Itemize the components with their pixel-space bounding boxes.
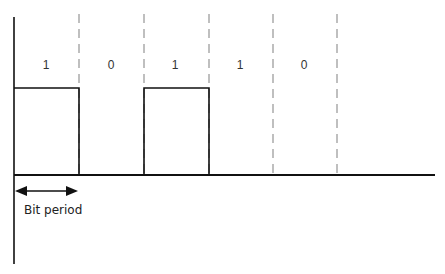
bit-period-label: Bit period: [24, 203, 82, 217]
bit-label-1: 1: [43, 58, 50, 72]
signal-waveform: [14, 88, 209, 175]
bit-dividers: [79, 14, 337, 173]
bit-label-3: 1: [172, 58, 179, 72]
waveform-diagram: 1 0 1 1 0 Bit period: [0, 0, 445, 274]
bit-period-arrow: [15, 186, 78, 196]
bit-label-4: 1: [237, 58, 244, 72]
bit-label-2: 0: [108, 58, 115, 72]
bit-label-5: 0: [301, 58, 308, 72]
